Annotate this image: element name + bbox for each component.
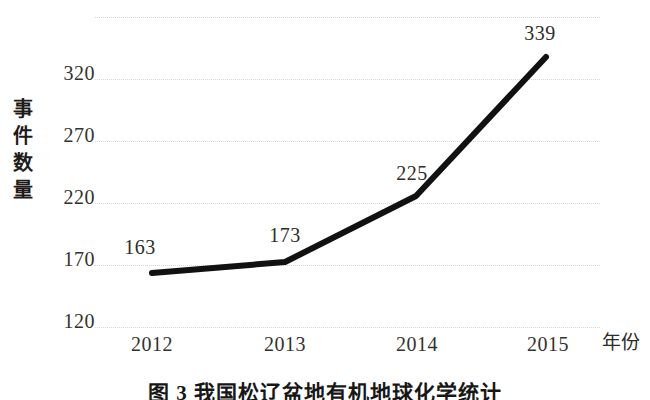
x-axis-tick-label-2014: 2014 (377, 333, 457, 355)
figure-caption: 图 3 我国松辽盆地有机地球化学统计 (0, 381, 650, 400)
x-axis-tick-label-2015: 2015 (508, 333, 588, 355)
data-label-2012: 163 (105, 237, 175, 258)
x-axis-tick-label-2012: 2012 (112, 333, 192, 355)
data-label-2013: 173 (250, 225, 320, 246)
x-axis-tick-label-2013: 2013 (245, 333, 325, 355)
x-axis-title: 年份 (602, 332, 640, 354)
data-label-2015: 339 (505, 23, 575, 44)
figure-container: 事 件 数 量 320 270 220 170 120 163 173 225 … (0, 0, 650, 400)
data-label-2014: 225 (377, 163, 447, 184)
